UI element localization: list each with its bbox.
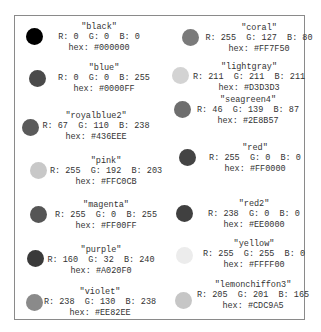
color-swatch-circle — [22, 119, 39, 136]
color-rgb: R: 255 G: 0 B: 0 — [209, 153, 301, 163]
color-name: "black" — [58, 22, 140, 32]
color-hex: hex: #000000 — [58, 43, 140, 53]
color-label: "black"R: 0 G: 0 B: 0hex: #000000 — [58, 22, 140, 53]
color-swatch-circle — [26, 28, 43, 45]
color-name: "violet" — [44, 287, 156, 297]
color-hex: hex: #A020F0 — [47, 266, 154, 276]
color-rgb: R: 255 G: 0 B: 255 — [55, 210, 157, 220]
color-rgb: R: 0 G: 0 B: 0 — [58, 32, 140, 42]
color-hex: hex: #FF7F50 — [205, 44, 312, 54]
color-label: "blue"R: 0 G: 0 B: 255hex: #0000FF — [58, 63, 150, 94]
color-name: "lemonchiffon3" — [197, 280, 309, 290]
color-label: "purple"R: 160 G: 32 B: 240hex: #A020F0 — [47, 245, 154, 276]
color-name: "royalblue2" — [42, 111, 149, 121]
color-name: "purple" — [47, 245, 154, 255]
color-name: "magenta" — [55, 200, 157, 210]
color-swatch-circle — [30, 206, 47, 223]
color-swatch-circle — [176, 247, 193, 264]
color-swatch-circle — [27, 250, 44, 267]
color-label: "red2"R: 238 G: 0 B: 0hex: #EE0000 — [208, 199, 300, 230]
color-swatch-circle — [179, 149, 196, 166]
color-name: "seagreen4" — [197, 95, 299, 105]
color-rgb: R: 238 G: 130 B: 238 — [44, 297, 156, 307]
color-hex: hex: #CDC9A5 — [197, 301, 309, 311]
color-label: "red"R: 255 G: 0 B: 0hex: #FF0000 — [209, 143, 301, 174]
color-rgb: R: 238 G: 0 B: 0 — [208, 209, 300, 219]
color-hex: hex: #D3D3D3 — [193, 83, 305, 93]
color-label: "yellow"R: 255 G: 255 B: 0hex: #FFFF00 — [203, 239, 305, 270]
color-label: "coral"R: 255 G: 127 B: 80hex: #FF7F50 — [205, 23, 312, 54]
color-name: "pink" — [50, 156, 162, 166]
color-rgb: R: 255 G: 192 B: 203 — [50, 166, 162, 176]
color-swatch-circle — [175, 292, 192, 309]
color-hex: hex: #EE82EE — [44, 308, 156, 318]
color-hex: hex: #FFFF00 — [203, 260, 305, 270]
color-label: "lemonchiffon3"R: 205 G: 201 B: 165hex: … — [197, 280, 309, 311]
color-rgb: R: 255 G: 127 B: 80 — [205, 33, 312, 43]
color-name: "coral" — [205, 23, 312, 33]
color-hex: hex: #EE0000 — [208, 220, 300, 230]
color-swatch-circle — [26, 294, 43, 311]
color-name: "yellow" — [203, 239, 305, 249]
color-swatch-circle — [174, 101, 191, 118]
color-name: "lightgray" — [193, 62, 305, 72]
color-label: "royalblue2"R: 67 G: 110 B: 238hex: #436… — [42, 111, 149, 142]
color-rgb: R: 67 G: 110 B: 238 — [42, 121, 149, 131]
color-hex: hex: #0000FF — [58, 84, 150, 94]
color-swatch-circle — [172, 67, 189, 84]
color-label: "magenta"R: 255 G: 0 B: 255hex: #FF00FF — [55, 200, 157, 231]
color-hex: hex: #2E8B57 — [197, 116, 299, 126]
color-rgb: R: 0 G: 0 B: 255 — [58, 73, 150, 83]
color-swatch-circle — [176, 205, 193, 222]
color-hex: hex: #FF00FF — [55, 221, 157, 231]
color-hex: hex: #436EEE — [42, 132, 149, 142]
color-swatch-circle — [182, 29, 199, 46]
color-label: "violet"R: 238 G: 130 B: 238hex: #EE82EE — [44, 287, 156, 318]
color-label: "pink"R: 255 G: 192 B: 203hex: #FFC0CB — [50, 156, 162, 187]
color-rgb: R: 255 G: 255 B: 0 — [203, 249, 305, 259]
color-rgb: R: 160 G: 32 B: 240 — [47, 255, 154, 265]
color-name: "blue" — [58, 63, 150, 73]
color-label: "seagreen4"R: 46 G: 139 B: 87hex: #2E8B5… — [197, 95, 299, 126]
color-hex: hex: #FF0000 — [209, 164, 301, 174]
color-hex: hex: #FFC0CB — [50, 177, 162, 187]
color-swatch-circle — [29, 70, 46, 87]
color-rgb: R: 46 G: 139 B: 87 — [197, 105, 299, 115]
color-swatch-circle — [30, 162, 47, 179]
color-name: "red2" — [208, 199, 300, 209]
color-rgb: R: 205 G: 201 B: 165 — [197, 290, 309, 300]
color-label: "lightgray"R: 211 G: 211 B: 211hex: #D3D… — [193, 62, 305, 93]
color-rgb: R: 211 G: 211 B: 211 — [193, 72, 305, 82]
color-name: "red" — [209, 143, 301, 153]
